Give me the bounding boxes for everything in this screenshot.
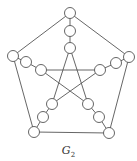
node-s_left1 (21, 57, 32, 68)
edge (70, 13, 129, 57)
node-i_br (83, 99, 94, 110)
node-o_br (104, 128, 115, 139)
node-o_right (124, 52, 135, 63)
nodes (8, 8, 135, 139)
edge (52, 48, 70, 104)
node-s_bl1 (38, 112, 49, 123)
graph-diagram (0, 0, 137, 161)
node-s_br1 (94, 112, 105, 123)
node-i_bl (47, 99, 58, 110)
node-i_top (65, 43, 76, 54)
edge (13, 56, 34, 132)
node-i_left (36, 65, 47, 76)
edge (70, 48, 88, 104)
graph-label-main: G (62, 144, 71, 157)
node-o_top (65, 8, 76, 19)
node-o_left (8, 51, 19, 62)
edge (34, 132, 109, 133)
graph-label-subscript: 2 (71, 151, 75, 159)
edge (13, 13, 70, 56)
edge (52, 70, 100, 104)
node-i_right (95, 65, 106, 76)
node-s_right1 (111, 58, 122, 69)
node-o_bl (29, 127, 40, 138)
edge (109, 57, 129, 133)
graph-label: G2 (0, 144, 137, 159)
node-s_top1 (65, 26, 76, 37)
edge (41, 70, 88, 104)
